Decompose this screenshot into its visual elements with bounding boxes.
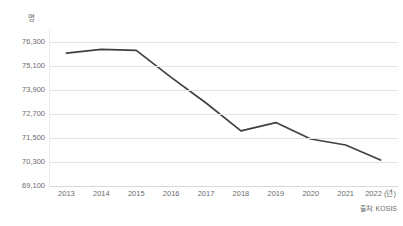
gridline xyxy=(49,138,398,139)
gridline xyxy=(49,90,398,91)
x-axis-tick-label: 2020 xyxy=(302,189,319,199)
x-axis-tick-label: 2014 xyxy=(93,189,110,199)
x-axis-tick-label: 2016 xyxy=(163,189,180,199)
gridline xyxy=(49,66,398,67)
y-axis-tick-label: 69,100 xyxy=(1,182,45,190)
x-axis-tick-labels: 2013201420152016201720182019202020212022… xyxy=(49,189,403,203)
y-axis-unit-label: 명 xyxy=(28,14,35,23)
x-axis-tick-label: 2018 xyxy=(233,189,250,199)
y-axis-tick-label: 75,100 xyxy=(1,62,45,70)
x-axis-tick-label: 2021 xyxy=(337,189,354,199)
y-axis-tick-label: 76,300 xyxy=(1,38,45,46)
x-axis-tick-label: 2017 xyxy=(198,189,215,199)
gridline xyxy=(49,162,398,163)
y-axis-tick-label: 72,700 xyxy=(1,110,45,118)
line-chart: 명 76,30075,10073,90072,70071,50070,30069… xyxy=(0,0,403,226)
x-axis-tick-label: 2013 xyxy=(58,189,75,199)
y-axis-tick-label: 71,500 xyxy=(1,134,45,142)
y-axis-tick-label: 70,300 xyxy=(1,158,45,166)
gridline xyxy=(49,186,398,187)
x-axis-tick-label: 2015 xyxy=(128,189,145,199)
x-axis-tick-label: 2022 (년) xyxy=(365,189,396,199)
y-axis-tick-labels: 76,30075,10073,90072,70071,50070,30069,1… xyxy=(0,30,45,186)
x-axis-tick-label: 2019 xyxy=(268,189,285,199)
plot-area xyxy=(49,30,398,186)
gridline xyxy=(49,42,398,43)
y-axis-tick-label: 73,900 xyxy=(1,86,45,94)
source-note: 출처: KOSIS xyxy=(360,204,397,213)
gridline xyxy=(49,114,398,115)
